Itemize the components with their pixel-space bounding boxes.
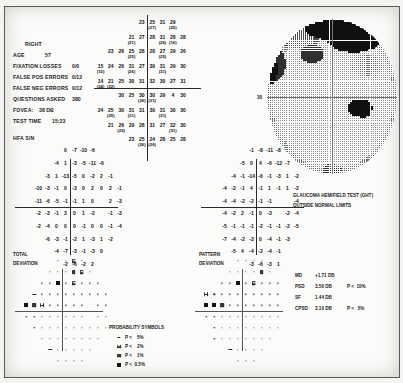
tdp-symbol: [42, 316, 43, 317]
pd-value: -2: [285, 223, 289, 229]
legend-symbol: [117, 336, 120, 339]
sensitivity-value: 24: [98, 107, 104, 113]
index-value: 3.50 DB: [315, 284, 332, 289]
pd-value: -1: [267, 223, 271, 229]
sensitivity-retest-value: (15): [97, 68, 105, 73]
td-value: -3: [117, 198, 121, 204]
pd-value: -2: [258, 248, 262, 254]
sensitivity-value: 31: [139, 78, 145, 84]
tdp-symbol: [81, 294, 82, 295]
total-deviation-numeric-grid: 0-7-10-6-41-3-5-11-6-31-13-50-22-1-10-3-…: [15, 159, 120, 257]
td-value: 0: [82, 185, 85, 191]
pd-value: -2: [258, 223, 262, 229]
td-value: -1: [81, 248, 85, 254]
td-value: -3: [45, 185, 49, 191]
pd-value: -1: [258, 198, 262, 204]
td-value: 1: [100, 236, 103, 242]
pd-value: -1: [240, 185, 244, 191]
tdp-symbol: [57, 305, 58, 306]
pd-value: -3: [267, 210, 271, 216]
tdp-symbol: [57, 327, 58, 328]
pdp-symbol: [237, 349, 238, 350]
age-value: 57: [45, 52, 51, 58]
sensitivity-value: 23: [129, 136, 135, 142]
td-value: -3: [45, 173, 49, 179]
pd-value: 2: [241, 210, 244, 216]
pdp-symbol: [212, 303, 216, 307]
pattern-deviation-label-line1: PATTERN: [199, 252, 220, 257]
legend-symbol: [117, 363, 121, 367]
sensitivity-value: 29: [170, 48, 176, 54]
td-value: 1: [64, 160, 67, 166]
pdp-symbol: [253, 316, 254, 317]
pd-value: 1: [268, 185, 271, 191]
pdp-symbol: [245, 260, 246, 261]
td-value: -1: [54, 210, 58, 216]
fixation-losses-value: 0/0: [72, 63, 79, 69]
pd-value: -3: [285, 236, 289, 242]
grayscale-degree-label: 30: [257, 95, 262, 100]
tdp-symbol: [89, 283, 90, 284]
td-value: 3: [64, 210, 67, 216]
pdp-symbol: [269, 316, 270, 317]
tdp-symbol: [49, 327, 50, 328]
sensitivity-value: 30: [180, 107, 186, 113]
td-value: 0: [100, 223, 103, 229]
td-value: -3: [54, 236, 58, 242]
sensitivity-value: 24: [108, 63, 114, 69]
tdp-symbol: [48, 348, 51, 351]
td-value: -13: [62, 173, 69, 179]
tdp-symbol: [65, 260, 66, 261]
tdp-symbol: [97, 338, 98, 339]
sensitivity-retest-value: (26): [148, 142, 156, 147]
td-value: -4: [54, 248, 58, 254]
pdp-symbol: [269, 327, 270, 328]
tdp-symbol: [57, 271, 58, 272]
tdp-symbol: [65, 338, 66, 339]
pd-value: -1: [276, 223, 280, 229]
fovea-label: FOVEA:: [13, 107, 34, 113]
pdp-symbol: [245, 305, 246, 306]
tdp-symbol: [40, 304, 44, 308]
pdp-symbol: [277, 283, 278, 284]
tdp-symbol: [32, 304, 36, 308]
tdp-symbol: [65, 360, 66, 361]
tdp-symbol: [42, 283, 43, 284]
pd-value: -1: [276, 185, 280, 191]
legend-label: P < 0.5%: [125, 362, 145, 367]
pdp-symbol: [214, 316, 215, 317]
legend-symbol: [117, 354, 121, 358]
tdp-symbol: [34, 316, 35, 317]
tdp-symbol: [81, 283, 82, 284]
tdp-symbol: [65, 327, 66, 328]
pdp-symbol: [205, 293, 209, 297]
pd-value: -4: [222, 185, 226, 191]
pd-value: -7: [285, 160, 289, 166]
td-value: 0: [91, 223, 94, 229]
td-value: 0: [100, 185, 103, 191]
td-value: -1: [117, 185, 121, 191]
pdp-symbol: [252, 281, 256, 285]
pd-value: -1: [267, 173, 271, 179]
td-value: -1: [81, 223, 85, 229]
pdp-symbol: [261, 294, 262, 295]
pdp-symbol: [261, 283, 262, 284]
sensitivity-value: 29: [129, 122, 135, 128]
pdp-symbol: [237, 260, 238, 261]
td-value: -10: [35, 185, 42, 191]
tdp-symbol: [105, 327, 106, 328]
tdp-symbol: [73, 305, 74, 306]
pdp-symbol: [228, 348, 231, 351]
pattern-deviation-label-line2: DEVIATION: [199, 261, 224, 266]
pdp-symbol: [261, 305, 262, 306]
legend-label: P < 1%: [125, 353, 144, 358]
pdp-symbol: [229, 316, 230, 317]
tdp-symbol: [97, 316, 98, 317]
pdp-symbol: [237, 271, 238, 272]
pd-value: 0: [259, 236, 262, 242]
pdp-symbol: [277, 294, 278, 295]
sensitivity-value: 28: [149, 34, 155, 40]
pd-value: -1: [276, 236, 280, 242]
visual-field-report-page: RIGHT AGE 57 FIXATION LOSSES 0/0 FALSE P…: [0, 0, 403, 383]
tdp-symbol: [89, 294, 90, 295]
